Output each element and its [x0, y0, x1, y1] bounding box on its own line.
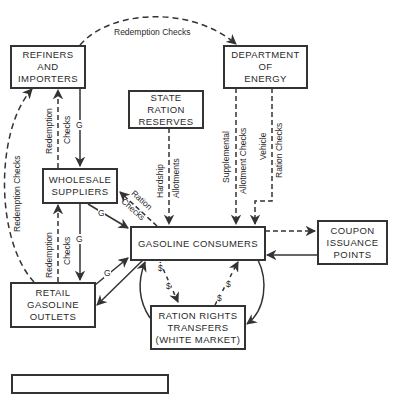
label-g-wholesale-consumers: G	[98, 208, 105, 218]
label-retail-to-refiners: Redemption Checks	[12, 155, 22, 232]
node-label: RESERVES	[139, 116, 194, 128]
edge-retail-to-consumers	[95, 258, 128, 285]
node-label: TRANSFERS	[156, 322, 241, 334]
label-wholesale-refiners-1: Redemption	[44, 108, 54, 154]
node-label: ISSUANCE	[327, 237, 379, 249]
label-g-wholesale-retail: G	[76, 234, 83, 244]
node-label: ENERGY	[231, 73, 300, 85]
label-dollar: $	[217, 293, 222, 303]
node-label: SUPPLIERS	[49, 186, 112, 198]
node-label: POINTS	[327, 249, 379, 261]
legend-box-partial	[11, 374, 169, 394]
label-retail-wholesale-2: Checks	[62, 237, 72, 265]
edge-wholesale-to-consumers	[88, 204, 128, 228]
node-label: STATE	[139, 92, 194, 104]
label-g-refiners-wholesale: G	[76, 120, 83, 130]
edge-consumers-to-retail	[97, 260, 143, 305]
node-department-of-energy: DEPARTMENTOFENERGY	[223, 45, 308, 89]
node-label: RATION RIGHTS	[156, 310, 241, 322]
node-label: OUTLETS	[27, 311, 79, 323]
node-label: (WHITE MARKET)	[156, 334, 241, 346]
node-label: COUPON	[327, 225, 379, 237]
edge-transfers-to-consumers	[140, 262, 150, 318]
node-wholesale-suppliers: WHOLESALESUPPLIERS	[42, 168, 118, 204]
label-retail-wholesale-1: Redemption	[44, 232, 54, 278]
node-ration-rights-transfers: RATION RIGHTSTRANSFERS(WHITE MARKET)	[150, 305, 246, 350]
node-state-ration-reserves: STATERATIONRESERVES	[128, 90, 204, 129]
node-label: OF	[231, 61, 300, 73]
label-allotments: Allotments	[171, 158, 181, 198]
node-label: REFINERS	[18, 49, 78, 61]
label-dollar: $	[226, 279, 231, 289]
node-label: RETAIL	[27, 287, 79, 299]
node-coupon-issuance-points: COUPONISSUANCEPOINTS	[317, 220, 388, 265]
label-wholesale-refiners-2: Checks	[62, 116, 72, 144]
label-dollar: $	[166, 281, 171, 291]
node-label: IMPORTERS	[18, 73, 78, 85]
node-gasoline-consumers: GASOLINE CONSUMERS	[130, 226, 266, 261]
label-dollar: $	[158, 263, 163, 273]
node-label: RATION	[139, 104, 194, 116]
label-ration-checks: Ration Checks	[274, 123, 284, 178]
node-retail-gasoline-outlets: RETAILGASOLINEOUTLETS	[10, 282, 96, 328]
label-vehicle: Vehicle	[258, 133, 268, 160]
node-refiners-importers: REFINERSANDIMPORTERS	[10, 45, 86, 89]
label-allotment-checks: Allotment Checks	[238, 128, 248, 194]
label-redemption-checks-top: Redemption Checks	[112, 27, 193, 37]
node-label: GASOLINE	[27, 299, 79, 311]
node-label: DEPARTMENT	[231, 49, 300, 61]
edge-consumers-to-transfers	[247, 260, 264, 324]
label-hardship: Hardship	[155, 164, 165, 198]
node-label: AND	[18, 61, 78, 73]
node-label: WHOLESALE	[49, 174, 112, 186]
label-g-retail-consumers: G	[104, 268, 111, 278]
label-supplemental: Supplemental	[221, 131, 231, 183]
node-label: GASOLINE CONSUMERS	[138, 238, 258, 250]
